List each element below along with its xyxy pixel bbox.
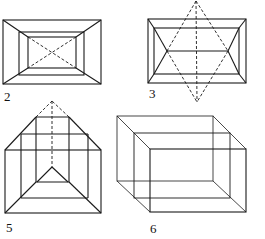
figure-sheet: 2 3: [0, 0, 265, 239]
figure-6: 6: [117, 116, 246, 236]
figure-label-6: 6: [150, 221, 157, 236]
figure-2: 2: [3, 20, 101, 104]
figure-5: 5: [5, 101, 101, 235]
figure-label-3: 3: [149, 86, 156, 101]
figure-label-2: 2: [4, 89, 11, 104]
figure-3: 3: [148, 1, 246, 102]
figure-label-5: 5: [6, 220, 13, 235]
